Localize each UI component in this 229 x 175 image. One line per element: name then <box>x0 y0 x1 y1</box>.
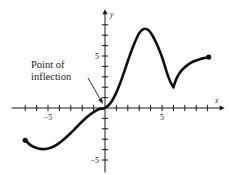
inflection-point-graph-figure: −555−5 xy Point of inflection <box>0 0 229 175</box>
curve-endpoint-dot <box>206 54 211 59</box>
annotation-text-line-1: Point of <box>31 59 65 71</box>
x-tick-label: −5 <box>44 113 53 122</box>
y-tick-label: −5 <box>90 156 99 165</box>
y-axis-label: y <box>109 10 114 19</box>
x-axis-label: x <box>214 96 219 105</box>
x-axis-arrowhead <box>220 105 225 110</box>
y-tick-label: 5 <box>95 52 99 61</box>
annotation-leader-arrow <box>88 78 103 104</box>
curve-endpoint-dot <box>23 138 28 143</box>
graph-canvas: −555−5 xy <box>0 0 229 175</box>
y-axis-arrowhead <box>102 9 107 14</box>
curve-segment-left <box>25 29 173 149</box>
function-curve-group <box>25 29 209 149</box>
curve-segment-right <box>173 57 208 87</box>
x-tick-label: 5 <box>160 113 164 122</box>
annotation-leader-line <box>88 78 100 99</box>
annotation-text-line-2: inflection <box>31 71 71 83</box>
annotation-arrowhead <box>98 98 103 104</box>
